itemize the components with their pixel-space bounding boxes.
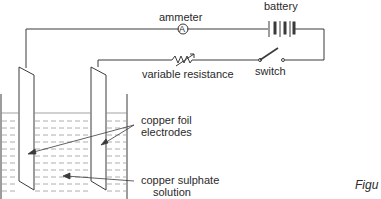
left-electrode — [19, 67, 34, 190]
pointer-arrows — [28, 125, 134, 181]
lower-wire — [98, 60, 172, 67]
variable-resistance-label: variable resistance — [142, 68, 234, 80]
circuit-drawing — [0, 0, 381, 199]
right-electrode — [91, 67, 106, 190]
top-wire — [26, 29, 179, 68]
ammeter-symbol: A — [179, 23, 185, 35]
battery-icon — [269, 21, 295, 37]
switch-icon — [259, 48, 285, 62]
ammeter-label: ammeter — [159, 11, 202, 23]
solution-label-line2: solution — [153, 186, 191, 198]
figure-caption: Figu — [355, 179, 378, 191]
solution-label-line1: copper sulphate — [141, 174, 219, 186]
switch-label: switch — [255, 65, 286, 77]
electrolysis-diagram: ammeter A battery variable resistance sw… — [0, 0, 381, 199]
battery-label: battery — [264, 0, 298, 12]
electrodes-label-line2: electrodes — [141, 126, 192, 138]
electrodes-label-line1: copper foil — [141, 114, 192, 126]
